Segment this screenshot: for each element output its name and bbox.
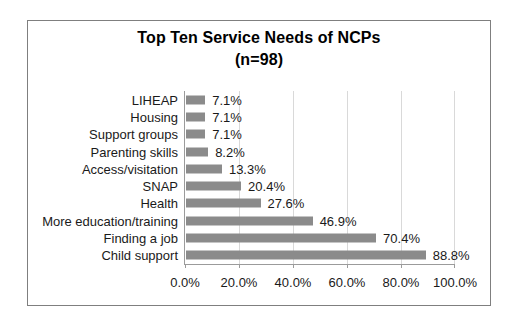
category-label: Parenting skills	[26, 144, 185, 159]
value-label: 46.9%	[320, 213, 357, 228]
category-label: Support groups	[26, 127, 185, 142]
bar-row-child-support: Child support88.8%	[185, 247, 455, 264]
x-axis-tick	[185, 264, 186, 268]
bar-row-housing: Housing7.1%	[185, 108, 455, 125]
x-axis-tick	[293, 264, 294, 268]
bar	[186, 164, 222, 173]
category-label: Health	[26, 196, 185, 211]
bar-row-access-visitation: Access/visitation13.3%	[185, 160, 455, 177]
value-label: 13.3%	[229, 161, 266, 176]
bar	[186, 182, 241, 191]
bar	[186, 251, 426, 260]
value-label: 88.8%	[433, 248, 470, 263]
category-label: More education/training	[26, 213, 185, 228]
x-axis-tick	[401, 264, 402, 268]
value-label: 7.1%	[212, 92, 242, 107]
bar-row-health: Health27.6%	[185, 195, 455, 212]
bar	[186, 234, 376, 243]
x-axis-tick	[454, 264, 455, 268]
value-label: 20.4%	[248, 179, 285, 194]
bar-row-parenting-skills: Parenting skills8.2%	[185, 143, 455, 160]
x-axis-tick-label: 100.0%	[423, 275, 487, 290]
chart-title-line2: (n=98)	[28, 49, 490, 71]
chart-frame: Top Ten Service Needs of NCPs (n=98) 0.0…	[27, 20, 491, 306]
value-label: 27.6%	[268, 196, 305, 211]
value-label: 8.2%	[215, 144, 245, 159]
chart-title: Top Ten Service Needs of NCPs (n=98)	[28, 27, 490, 71]
bar-row-snap: SNAP20.4%	[185, 178, 455, 195]
category-label: Housing	[26, 109, 185, 124]
bar	[186, 95, 205, 104]
bar	[186, 147, 208, 156]
chart-title-line1: Top Ten Service Needs of NCPs	[28, 27, 490, 49]
chart-image: Top Ten Service Needs of NCPs (n=98) 0.0…	[0, 0, 519, 324]
bar	[186, 199, 261, 208]
bar-row-liheap: LIHEAP7.1%	[185, 91, 455, 108]
value-label: 70.4%	[383, 231, 420, 246]
category-label: SNAP	[26, 179, 185, 194]
category-label: Finding a job	[26, 231, 185, 246]
plot-area: 0.0%20.0%40.0%60.0%80.0%100.0%LIHEAP7.1%…	[184, 91, 455, 265]
x-axis-tick	[239, 264, 240, 268]
bar-row-finding-a-job: Finding a job70.4%	[185, 229, 455, 246]
x-axis-tick	[347, 264, 348, 268]
bar-row-more-education-training: More education/training46.9%	[185, 212, 455, 229]
bar	[186, 112, 205, 121]
category-label: Child support	[26, 248, 185, 263]
value-label: 7.1%	[212, 127, 242, 142]
category-label: Access/visitation	[26, 161, 185, 176]
value-label: 7.1%	[212, 109, 242, 124]
bar	[186, 130, 205, 139]
bar	[186, 216, 313, 225]
bar-row-support-groups: Support groups7.1%	[185, 126, 455, 143]
category-label: LIHEAP	[26, 92, 185, 107]
